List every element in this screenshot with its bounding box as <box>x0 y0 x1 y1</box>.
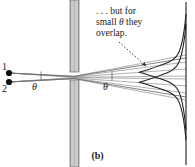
barrier-upper-bar <box>70 0 79 72</box>
intensity-curve-source-2 <box>140 24 187 140</box>
annotation-line-1: . . . but for <box>96 6 142 17</box>
theta-label-right: θ <box>103 82 108 92</box>
annotation-line-2-after: they <box>124 17 143 27</box>
annotation-line-2-before: small <box>96 17 119 27</box>
figure-caption: (b) <box>0 151 195 161</box>
overlap-annotation-text: . . . but for small θ they overlap. <box>96 6 142 39</box>
diffraction-figure: 1 2 θ θ . . . but for small θ they overl… <box>0 0 195 167</box>
annotation-pointer <box>119 42 146 66</box>
source-1-label: 1 <box>2 62 7 72</box>
annotation-line-2: small θ they <box>96 17 142 28</box>
annotation-line-3: overlap. <box>96 28 142 39</box>
source-2-label: 2 <box>2 84 7 94</box>
theta-label-left: θ <box>32 82 37 92</box>
